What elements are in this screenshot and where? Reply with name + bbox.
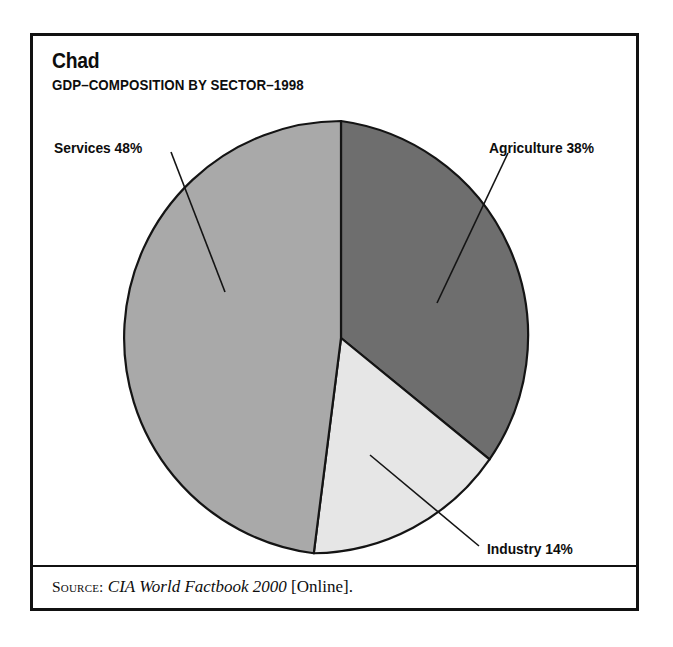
source-medium: [Online].	[291, 577, 353, 596]
page-title: Chad	[52, 49, 422, 73]
source-label: Source:	[52, 578, 104, 595]
pie-label-industry: Industry 14%	[487, 540, 573, 557]
source-work-title: CIA World Factbook 2000	[108, 577, 287, 596]
pie-label-services: Services 48%	[54, 139, 142, 156]
figure-frame	[30, 33, 639, 611]
source-divider	[33, 565, 636, 567]
figure-root: Chad GDP–COMPOSITION BY SECTOR–1998 Serv…	[0, 0, 673, 647]
title-block: Chad GDP–COMPOSITION BY SECTOR–1998	[52, 49, 472, 94]
chart-subtitle: GDP–COMPOSITION BY SECTOR–1998	[52, 76, 413, 94]
pie-label-agriculture: Agriculture 38%	[489, 139, 594, 156]
source-line: Source: CIA World Factbook 2000 [Online]…	[52, 576, 353, 598]
